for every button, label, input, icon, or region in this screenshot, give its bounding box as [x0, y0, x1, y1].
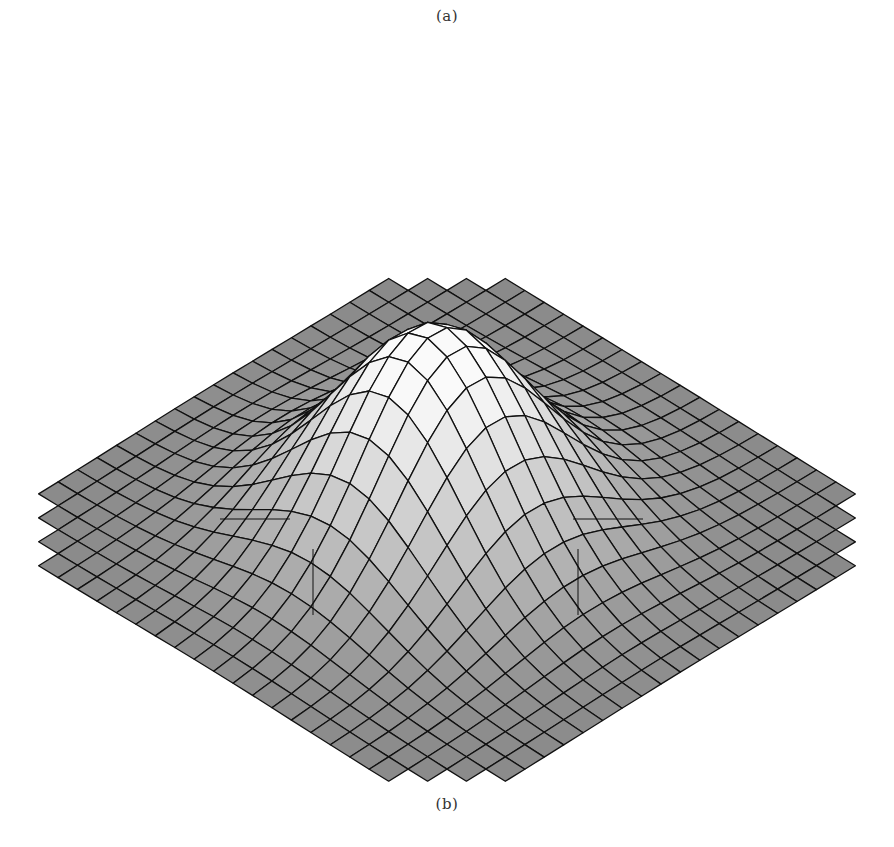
figure-caption-b: (b): [0, 795, 894, 813]
surface-plot: [0, 0, 894, 847]
surface-faces: [39, 279, 856, 782]
